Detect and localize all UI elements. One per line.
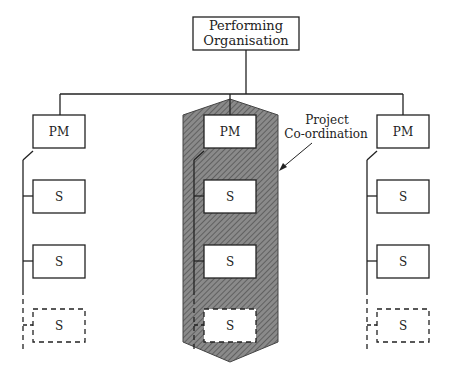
annotation-line-1: Project <box>305 113 349 127</box>
root-label-2: Organisation <box>203 33 289 48</box>
root-label-1: Performing <box>209 18 283 33</box>
pm-label: PM <box>220 125 240 139</box>
spine-diagonal <box>23 151 33 160</box>
annotation-line-2: Co-ordination <box>284 127 368 141</box>
staff-label: S <box>55 255 63 269</box>
column-0: PMSSS <box>23 115 85 353</box>
staff-label: S <box>399 255 407 269</box>
pm-label: PM <box>393 125 413 139</box>
org-chart-diagram: Performing Organisation PMSSSPMSSSPMSSS … <box>0 0 454 380</box>
pm-label: PM <box>49 125 69 139</box>
staff-label: S <box>55 319 63 333</box>
staff-label: S <box>226 319 234 333</box>
staff-label: S <box>226 190 234 204</box>
spine-diagonal <box>367 151 377 160</box>
project-coordination-label: Project Co-ordination <box>279 113 368 171</box>
staff-label: S <box>226 255 234 269</box>
annotation-arrow <box>282 143 312 168</box>
staff-label: S <box>399 190 407 204</box>
staff-label: S <box>55 190 63 204</box>
staff-label: S <box>399 319 407 333</box>
performing-organisation-box: Performing Organisation <box>193 17 299 50</box>
column-2: PMSSS <box>367 115 429 353</box>
